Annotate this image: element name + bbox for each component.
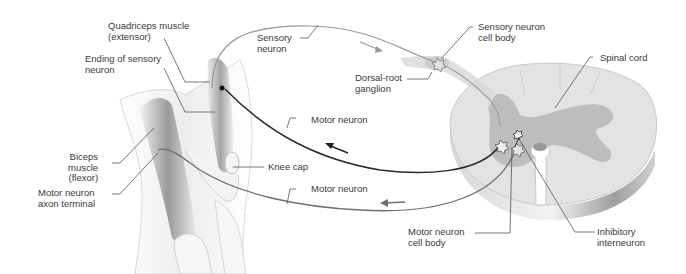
leader-quadriceps: [164, 38, 210, 82]
sensory-arrow-head-icon: [375, 46, 383, 53]
leader-motor-upper: [287, 118, 296, 128]
central-canal: [533, 143, 547, 151]
leader-sensory-neuron: [300, 25, 318, 38]
leg-illustration: [120, 58, 252, 274]
label-motor-cell-body: Motor neuron cell body: [408, 227, 465, 248]
label-knee-cap: Knee cap: [268, 162, 308, 173]
label-ending-sensory: Ending of sensory neuron: [85, 54, 161, 75]
label-inhibitory-interneuron: Inhibitory interneuron: [597, 227, 645, 248]
motor-upper-arrow-head-icon: [325, 143, 334, 149]
label-dorsal-root: Dorsal-root ganglion: [355, 73, 402, 94]
reflex-arc-diagram: [0, 0, 686, 274]
label-quadriceps: Quadriceps muscle (extensor): [108, 21, 189, 42]
knee-cap-shape: [225, 152, 239, 174]
label-motor-axon-terminal: Motor neuron axon terminal: [38, 188, 95, 209]
quadriceps-nerve-ending: [220, 86, 225, 91]
label-motor-neuron-lower: Motor neuron: [311, 184, 368, 195]
motor-lower-arrow-head-icon: [380, 199, 388, 207]
label-biceps: Biceps muscle (flexor): [68, 152, 98, 184]
label-spinal-cord: Spinal cord: [600, 53, 648, 64]
label-motor-neuron-upper: Motor neuron: [311, 115, 368, 126]
leader-dorsal-root: [407, 72, 432, 79]
leader-sensory-cell-body: [441, 27, 473, 59]
label-sensory-cell-body: Sensory neuron cell body: [478, 22, 545, 43]
label-sensory-neuron: Sensory neuron: [257, 33, 292, 54]
